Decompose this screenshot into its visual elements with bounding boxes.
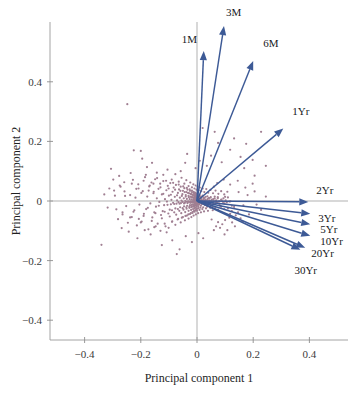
scatter-point [171, 220, 173, 222]
scatter-point [254, 175, 256, 177]
scatter-point [187, 210, 189, 212]
scatter-point [166, 201, 168, 203]
scatter-point [255, 203, 257, 205]
scatter-point [169, 209, 171, 211]
scatter-point [149, 184, 151, 186]
scatter-point [170, 199, 172, 201]
scatter-point [239, 156, 241, 158]
scatter-point [157, 188, 159, 190]
scatter-point [176, 199, 178, 201]
scatter-point [196, 210, 198, 212]
scatter-point [252, 159, 254, 161]
scatter-point [212, 192, 214, 194]
scatter-point [207, 210, 209, 212]
scatter-point [233, 137, 235, 139]
y-tick-label: 0.2 [28, 135, 42, 147]
scatter-point [171, 239, 173, 241]
scatter-point [231, 221, 233, 223]
scatter-point [190, 196, 192, 198]
scatter-point [221, 161, 223, 163]
scatter-point [210, 155, 212, 157]
scatter-point [117, 218, 119, 220]
scatter-point [119, 184, 121, 186]
scatter-point [203, 191, 205, 193]
scatter-point [252, 183, 254, 185]
scatter-point [173, 203, 175, 205]
scatter-point [229, 149, 231, 151]
scatter-point [189, 188, 191, 190]
scatter-point [149, 202, 151, 204]
scatter-point [194, 184, 196, 186]
scatter-point [180, 186, 182, 188]
scatter-point [144, 229, 146, 231]
scatter-point [107, 206, 109, 208]
loading-vector-2Yr [197, 201, 299, 202]
scatter-point [128, 231, 130, 233]
scatter-point [186, 215, 188, 217]
scatter-point [186, 198, 188, 200]
scatter-point [140, 221, 142, 223]
scatter-point [260, 209, 262, 211]
scatter-point [183, 202, 185, 204]
scatter-point [157, 223, 159, 225]
loading-vector-arrowhead-3M [219, 26, 226, 35]
scatter-point [164, 211, 166, 213]
scatter-point [164, 225, 166, 227]
scatter-point [178, 184, 180, 186]
scatter-point [188, 196, 190, 198]
scatter-point [158, 205, 160, 207]
scatter-point [143, 215, 145, 217]
scatter-point [186, 187, 188, 189]
scatter-point [187, 217, 189, 219]
scatter-point [132, 211, 134, 213]
scatter-point [200, 205, 202, 207]
scatter-point [123, 181, 125, 183]
scatter-point [224, 196, 226, 198]
scatter-point [180, 221, 182, 223]
scatter-point [136, 237, 138, 239]
scatter-point [179, 190, 181, 192]
scatter-point [175, 214, 177, 216]
scatter-point [178, 248, 180, 250]
loading-vector-1Yr [197, 134, 276, 201]
scatter-point [165, 180, 167, 182]
scatter-point [162, 193, 164, 195]
scatter-point [174, 196, 176, 198]
scatter-point [217, 221, 219, 223]
scatter-point [213, 229, 215, 231]
scatter-point [193, 215, 195, 217]
scatter-point [150, 181, 152, 183]
scatter-point [171, 178, 173, 180]
scatter-point [150, 233, 152, 235]
loading-vector-arrowhead-1M [200, 51, 207, 60]
y-tick-label: −0.2 [22, 255, 42, 267]
scatter-point [178, 181, 180, 183]
x-tick-label: 0.4 [303, 348, 317, 360]
scatter-point [143, 213, 145, 215]
scatter-point [183, 197, 185, 199]
scatter-point [137, 187, 139, 189]
scatter-point [189, 193, 191, 195]
scatter-point [187, 185, 189, 187]
scatter-point [141, 158, 143, 160]
loading-label-5Yr: 5Yr [320, 223, 337, 235]
scatter-point [163, 204, 165, 206]
scatter-point [152, 183, 154, 185]
loading-label-1Yr: 1Yr [292, 105, 309, 117]
loading-vector-arrowhead-6M [247, 61, 254, 71]
scatter-point [174, 173, 176, 175]
scatter-point [191, 186, 193, 188]
x-tick-label: −0.2 [131, 348, 151, 360]
scatter-point [162, 180, 164, 182]
scatter-point [191, 212, 193, 214]
scatter-point [166, 169, 168, 171]
scatter-point [180, 170, 182, 172]
scatter-point [184, 219, 186, 221]
scatter-point [136, 224, 138, 226]
scatter-point [159, 183, 161, 185]
scatter-point [170, 194, 172, 196]
scatter-point [180, 177, 182, 179]
loading-vector-arrowhead-5Yr [301, 219, 311, 226]
loading-label-6M: 6M [263, 37, 279, 49]
scatter-point [219, 227, 221, 229]
